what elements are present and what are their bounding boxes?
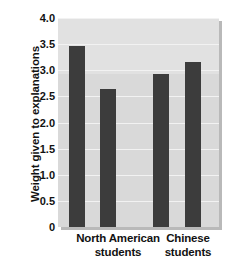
gridline: [58, 18, 219, 19]
y-axis-tick-label: 1.5: [26, 143, 55, 155]
x-axis-group-label: Chinesestudents: [128, 232, 235, 259]
bar: [69, 46, 85, 227]
y-axis-tick-label: 3.0: [26, 64, 55, 76]
y-axis-tick-labels: 4.03.53.02.52.01.51.00.50: [26, 0, 55, 268]
bar: [185, 62, 201, 227]
x-axis-group-labels: North AmericanstudentsChinesestudents: [0, 232, 235, 268]
y-axis-tick-label: 3.5: [26, 38, 55, 50]
x-axis-group-label-line2: students: [128, 246, 235, 260]
y-axis-tick-label: 2.5: [26, 90, 55, 102]
bar: [153, 74, 169, 227]
bar-chart-figure: Weight given to explanations 4.03.53.02.…: [0, 0, 235, 268]
y-axis-tick-label: 1.0: [26, 169, 55, 181]
plot-area: [58, 18, 219, 227]
y-axis-tick-label: 0.5: [26, 195, 55, 207]
y-axis-tick-label: 2.0: [26, 117, 55, 129]
y-axis-tick-label: 4.0: [26, 12, 55, 24]
bar: [100, 89, 116, 227]
x-axis-group-label-line1: Chinese: [166, 232, 210, 244]
